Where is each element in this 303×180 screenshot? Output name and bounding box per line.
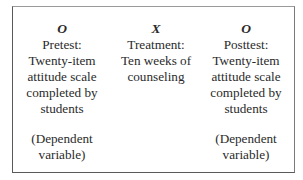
posttest-note-line: variable) xyxy=(196,147,296,163)
posttest-column: O Posttest: Twenty-item attitude scale c… xyxy=(196,21,296,163)
pretest-description-line: attitude scale xyxy=(12,69,112,85)
pretest-description-line: students xyxy=(12,101,112,117)
observation-symbol: O xyxy=(196,21,296,37)
pretest-note-line: variable) xyxy=(12,147,112,163)
pretest-variable-note: (Dependent variable) xyxy=(12,131,112,163)
posttest-description-line: students xyxy=(196,101,296,117)
treatment-label: Treatment: xyxy=(107,37,205,53)
posttest-label: Posttest: xyxy=(196,37,296,53)
posttest-description-line: Twenty-item xyxy=(196,53,296,69)
pretest-description-line: completed by xyxy=(12,85,112,101)
treatment-symbol: X xyxy=(107,21,205,37)
observation-symbol: O xyxy=(12,21,112,37)
treatment-description-line: counseling xyxy=(107,69,205,85)
posttest-note-line: (Dependent xyxy=(196,131,296,147)
posttest-variable-note: (Dependent variable) xyxy=(196,131,296,163)
pretest-note-line: (Dependent xyxy=(12,131,112,147)
posttest-description-line: completed by xyxy=(196,85,296,101)
pretest-label: Pretest: xyxy=(12,37,112,53)
treatment-column: X Treatment: Ten weeks of counseling xyxy=(107,21,205,85)
pretest-description-line: Twenty-item xyxy=(12,53,112,69)
posttest-description-line: attitude scale xyxy=(196,69,296,85)
pretest-column: O Pretest: Twenty-item attitude scale co… xyxy=(12,21,112,163)
treatment-description-line: Ten weeks of xyxy=(107,53,205,69)
